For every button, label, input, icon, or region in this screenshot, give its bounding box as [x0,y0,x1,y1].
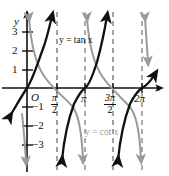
y-tick-1: 1 [12,64,18,75]
x-tick-3pi-over-2: 3π 2 [104,93,116,115]
fraction-denominator: 2 [51,105,58,116]
fraction-denominator: 2 [104,105,116,116]
y-tick-neg2: −2 [32,120,44,131]
y-tick-3: 3 [12,26,18,37]
y-tick-2: 2 [12,45,18,56]
fraction-numerator: π [51,93,58,105]
fraction-3pi-over-2: 3π 2 [104,93,116,115]
y-tick-neg3: −3 [32,139,44,150]
tan-branch-2pi [118,74,155,160]
x-tick-2pi: 2π [134,93,145,104]
cot-curve-label: y = cot x [85,128,119,138]
cot-branch-right [145,18,148,62]
trig-graph-figure: y x O 3 2 1 −1 −2 −3 π 2 π 3π 2 2π y = t… [0,0,169,176]
cot-branch-pi-2pi [87,18,141,160]
x-tick-pi: π [81,93,87,104]
x-axis-label: x [156,84,160,93]
tan-curve-label: y = tan x [59,36,93,46]
x-tick-pi-over-2: π 2 [51,93,58,115]
graph-canvas [0,0,169,176]
cot-branch-left [22,114,26,162]
fraction-numerator: 3π [104,93,116,105]
y-tick-neg1: −1 [32,101,44,112]
fraction-pi-over-2: π 2 [51,93,58,115]
